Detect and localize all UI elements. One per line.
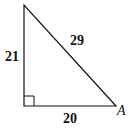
hypotenuse-label: 29 — [70, 33, 84, 48]
horizontal-leg-label: 20 — [63, 111, 77, 126]
vertex-a-label: A — [116, 103, 126, 118]
vertical-leg-label: 21 — [5, 49, 19, 64]
triangle — [24, 5, 116, 106]
right-angle-marker — [24, 96, 34, 106]
triangle-diagram: 21 29 20 A — [0, 0, 132, 128]
